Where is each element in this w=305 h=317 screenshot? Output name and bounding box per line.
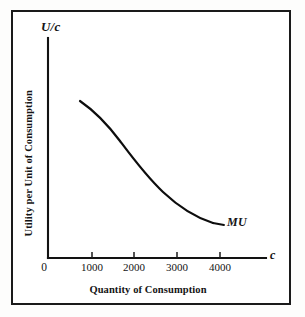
x-tick-label-4000: 4000 — [209, 262, 231, 273]
x-tick-label-3000: 3000 — [166, 262, 188, 273]
x-tick-label-2000: 2000 — [123, 262, 145, 273]
y-axis-symbol: U/c — [41, 20, 60, 33]
x-tick-label-0: 0 — [41, 262, 47, 274]
x-tick-label-1000: 1000 — [81, 262, 103, 273]
mu-label-leader — [213, 223, 224, 225]
y-axis-title: Utility per Unit of Consumption — [24, 68, 35, 258]
scanned-page: U/c c MU Utility per Unit of Consumption… — [0, 0, 305, 317]
marginal-utility-curve — [80, 101, 213, 223]
curve-label-mu: MU — [227, 216, 247, 228]
x-axis-title: Quantity of Consumption — [48, 285, 248, 296]
x-axis-symbol: c — [270, 249, 275, 261]
